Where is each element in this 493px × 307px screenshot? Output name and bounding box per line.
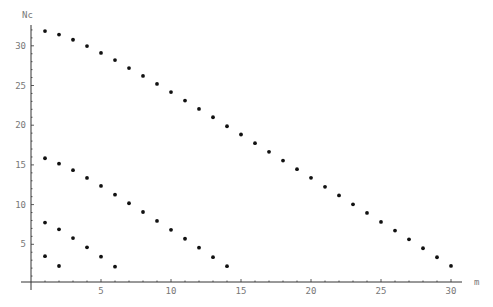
data-point <box>99 184 103 188</box>
x-tick-label: 20 <box>306 286 317 296</box>
data-point <box>71 38 75 42</box>
data-point <box>323 185 327 189</box>
x-tick-label: 30 <box>446 286 457 296</box>
y-tick-label: 25 <box>15 81 26 91</box>
data-point <box>99 255 103 259</box>
data-point <box>407 237 411 241</box>
data-point <box>85 44 89 48</box>
data-point <box>141 74 145 78</box>
data-point <box>365 211 369 215</box>
data-point <box>239 133 243 137</box>
y-tick-label: 30 <box>15 41 26 51</box>
data-point <box>309 176 313 180</box>
data-points <box>43 29 453 268</box>
y-tick-label: 5 <box>21 239 26 249</box>
data-point <box>393 229 397 233</box>
scatter-plot: 51015202530 51015202530 m Nc <box>0 0 493 307</box>
y-tick-label: 10 <box>15 200 26 210</box>
series-4 <box>43 254 61 268</box>
data-point <box>379 220 383 224</box>
data-point <box>169 90 173 94</box>
data-point <box>183 99 187 103</box>
data-point <box>225 264 229 268</box>
data-point <box>449 264 453 268</box>
data-point <box>155 82 159 86</box>
x-tick-label: 25 <box>376 286 387 296</box>
data-point <box>155 219 159 223</box>
data-point <box>197 246 201 250</box>
data-point <box>127 66 131 70</box>
data-point <box>57 264 61 268</box>
data-point <box>169 228 173 232</box>
x-axis-label: m <box>474 277 479 287</box>
data-point <box>85 176 89 180</box>
data-point <box>225 124 229 128</box>
data-point <box>57 162 61 166</box>
data-point <box>43 156 47 160</box>
data-point <box>71 168 75 172</box>
data-point <box>421 246 425 250</box>
data-point <box>435 255 439 259</box>
x-tick-label: 5 <box>98 286 103 296</box>
data-point <box>183 237 187 241</box>
series-2 <box>43 156 229 268</box>
x-tick-label: 10 <box>166 286 177 296</box>
data-point <box>141 210 145 214</box>
data-point <box>85 245 89 249</box>
data-point <box>57 33 61 37</box>
data-point <box>71 236 75 240</box>
data-point <box>113 265 117 269</box>
data-point <box>43 29 47 33</box>
data-point <box>253 141 257 145</box>
data-point <box>43 254 47 258</box>
data-point <box>281 159 285 163</box>
data-point <box>57 227 61 231</box>
series-1 <box>43 29 453 268</box>
data-point <box>337 194 341 198</box>
axes: 51015202530 51015202530 m Nc <box>15 10 479 296</box>
x-tick-label: 15 <box>236 286 247 296</box>
data-point <box>267 150 271 154</box>
data-point <box>43 221 47 225</box>
data-point <box>351 202 355 206</box>
y-tick-label: 15 <box>15 160 26 170</box>
y-axis-label: Nc <box>22 10 33 20</box>
data-point <box>295 167 299 171</box>
series-3 <box>43 221 117 269</box>
y-tick-label: 20 <box>15 120 26 130</box>
data-point <box>197 107 201 111</box>
data-point <box>113 58 117 62</box>
data-point <box>99 51 103 55</box>
data-point <box>113 193 117 197</box>
data-point <box>127 201 131 205</box>
data-point <box>211 255 215 259</box>
data-point <box>211 115 215 119</box>
